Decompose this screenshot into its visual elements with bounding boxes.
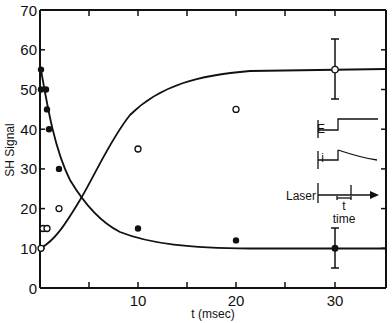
- filled-point: [135, 225, 141, 231]
- chart: 0 10 20 30 40 50 60 70 10 20 30 t (msec)…: [0, 0, 392, 323]
- x-axis-ticks: [89, 10, 335, 288]
- arrow-right-icon: [370, 191, 379, 199]
- filled-point: [46, 126, 52, 132]
- inset-diagram: E i Laser t time: [286, 119, 379, 226]
- filled-point: [233, 237, 239, 243]
- open-point: [38, 245, 44, 251]
- y-tick-20: 20: [20, 200, 37, 217]
- filled-point: [332, 245, 339, 252]
- filled-point: [38, 66, 44, 72]
- y-tick-40: 40: [20, 121, 37, 138]
- open-point: [332, 66, 338, 72]
- inset-time-label: time: [333, 212, 356, 226]
- y-tick-labels: 0 10 20 30 40 50 60 70: [20, 2, 37, 297]
- y-tick-0: 0: [29, 280, 37, 297]
- open-point: [233, 106, 239, 112]
- x-tick-labels: 10 20 30: [130, 292, 344, 309]
- inset-laser-label: Laser: [286, 189, 316, 203]
- y-axis-title: SH Signal: [3, 123, 17, 176]
- filled-point: [43, 86, 49, 92]
- filled-point: [56, 166, 62, 172]
- filled-series-points: [38, 66, 339, 251]
- open-point: [56, 206, 62, 212]
- e-waveform: [318, 119, 378, 138]
- y-tick-70: 70: [20, 2, 37, 19]
- inset-i-label: i: [321, 151, 324, 165]
- y-tick-30: 30: [20, 160, 37, 177]
- open-point: [44, 226, 50, 232]
- x-tick-30: 30: [327, 292, 344, 309]
- open-point: [135, 146, 141, 152]
- y-tick-60: 60: [20, 41, 37, 58]
- i-waveform: [318, 150, 377, 169]
- inset-t-label: t: [342, 199, 346, 213]
- y-tick-10: 10: [20, 240, 37, 257]
- filled-point: [44, 106, 50, 112]
- open-series-points: [38, 66, 338, 251]
- x-tick-10: 10: [130, 292, 147, 309]
- x-axis-title: t (msec): [191, 307, 234, 321]
- y-tick-50: 50: [20, 81, 37, 98]
